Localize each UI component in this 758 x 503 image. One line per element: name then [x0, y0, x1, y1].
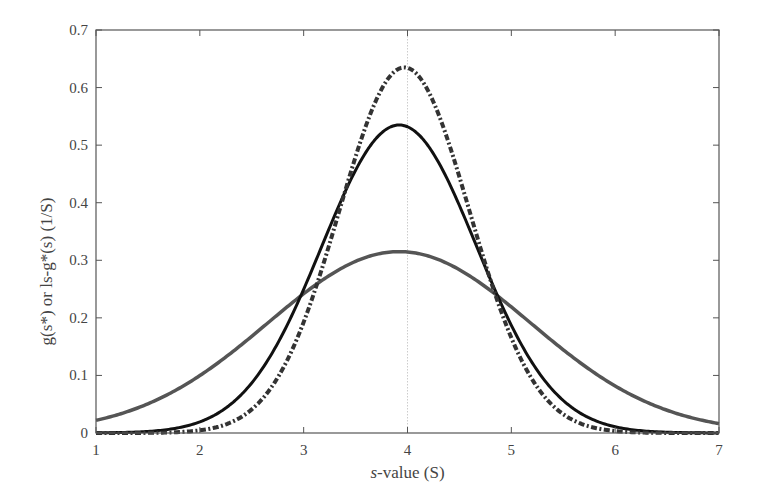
- y-tick-label: 0: [81, 425, 89, 441]
- x-tick-label: 4: [404, 442, 412, 458]
- x-tick-label: 6: [611, 442, 619, 458]
- y-axis-title: g(s*) or ls-g*(s) (1/S): [37, 198, 56, 346]
- y-tick-label: 0.3: [69, 252, 88, 268]
- y-tick-label: 0.6: [69, 80, 88, 96]
- chart: 1234567 00.10.20.30.40.50.60.7 s-value (…: [0, 0, 758, 503]
- y-tick-label: 0.1: [69, 367, 88, 383]
- x-tick-label: 5: [508, 442, 516, 458]
- x-tick-label: 7: [715, 442, 723, 458]
- x-axis-title: s-value (S): [370, 463, 444, 482]
- y-tick-label: 0.4: [69, 195, 88, 211]
- x-tick-label: 3: [300, 442, 308, 458]
- y-tick-label: 0.7: [69, 22, 88, 38]
- y-axis-ticks: 00.10.20.30.40.50.60.7: [69, 22, 719, 441]
- y-tick-label: 0.2: [69, 310, 88, 326]
- y-tick-label: 0.5: [69, 137, 88, 153]
- x-tick-label: 2: [196, 442, 204, 458]
- x-tick-label: 1: [92, 442, 100, 458]
